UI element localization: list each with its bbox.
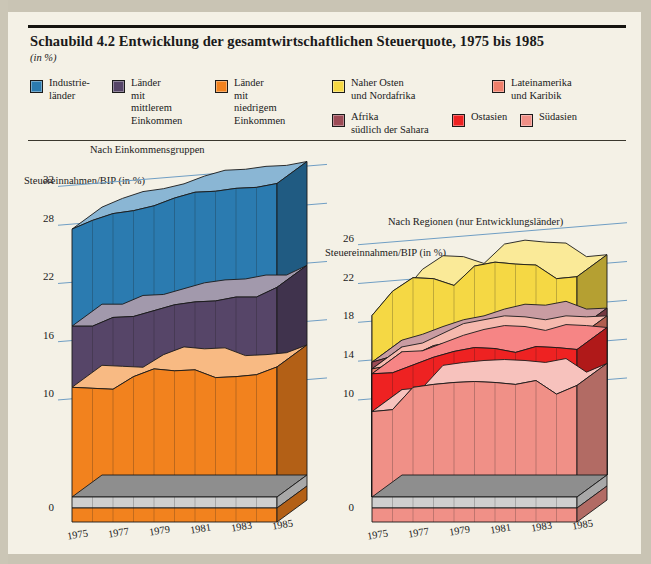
svg-text:1975: 1975 <box>366 527 388 541</box>
base-slab <box>372 475 607 508</box>
svg-text:10: 10 <box>343 387 355 399</box>
svg-text:1977: 1977 <box>407 525 429 539</box>
right-chart-canvas: 01014182226197519771979198119831985 <box>0 0 651 564</box>
svg-text:26: 26 <box>343 232 355 244</box>
svg-text:1981: 1981 <box>489 521 511 535</box>
figure-page: Schaubild 4.2 Entwicklung der gesamtwirt… <box>0 0 651 564</box>
svg-text:22: 22 <box>343 271 354 283</box>
svg-text:1983: 1983 <box>530 519 552 533</box>
svg-text:0: 0 <box>349 501 355 513</box>
svg-text:1985: 1985 <box>571 517 593 531</box>
svg-text:18: 18 <box>343 309 355 321</box>
svg-text:1979: 1979 <box>448 523 470 537</box>
y-axis-ticks: 01014182226 <box>343 232 355 513</box>
svg-text:14: 14 <box>343 348 355 360</box>
